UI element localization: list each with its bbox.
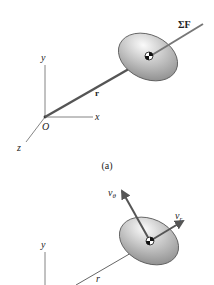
diagram-canvas: y x z O r ΣF (a) y r v (0, 0, 214, 285)
figure-b: y r vθ vr (40, 187, 186, 285)
x-axis-label: x (94, 111, 100, 122)
figure-a: y x z O r ΣF (a) (16, 19, 203, 172)
z-axis-label: z (16, 142, 21, 153)
figure-a-caption: (a) (101, 160, 112, 172)
axes-a: y x z O (16, 52, 100, 153)
position-label-b: r (96, 273, 100, 284)
y-axis-label-b: y (40, 239, 46, 250)
force-label: ΣF (178, 19, 191, 30)
center-of-mass-icon-a (145, 52, 153, 60)
y-axis-label: y (40, 52, 46, 63)
position-vector-label: r (95, 88, 99, 98)
v-r-label: vr (175, 210, 182, 223)
origin-label: O (42, 121, 49, 132)
center-of-mass-icon-b (146, 237, 154, 245)
v-theta-label: vθ (108, 187, 116, 200)
